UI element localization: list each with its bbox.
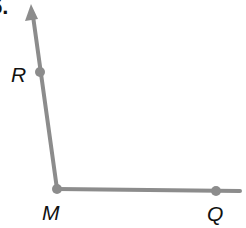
label-m: M xyxy=(42,202,60,223)
point-q xyxy=(211,186,221,196)
angle-diagram xyxy=(0,0,246,228)
point-m xyxy=(52,184,62,194)
label-q: Q xyxy=(207,203,223,224)
arrowhead-icon xyxy=(25,4,38,21)
point-r xyxy=(35,67,45,77)
label-r: R xyxy=(11,64,26,85)
ray-mr xyxy=(33,16,57,189)
